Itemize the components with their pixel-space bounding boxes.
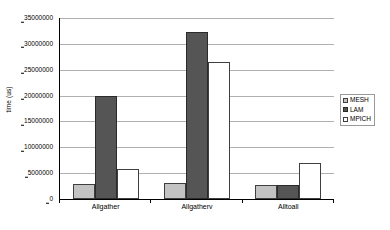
bar-mesh-allgatherv bbox=[164, 183, 186, 199]
bar-lam-allgatherv bbox=[186, 32, 208, 199]
y-axis-tick-label: 20000000 bbox=[24, 92, 53, 99]
bar-mpich-allgatherv bbox=[208, 62, 230, 199]
y-axis-title: time (us) bbox=[0, 0, 16, 198]
bar-groups bbox=[60, 18, 334, 199]
bar-group bbox=[243, 18, 334, 199]
bar-group bbox=[60, 18, 151, 199]
bar-group bbox=[151, 18, 242, 199]
y-axis-tick-labels: 3500000030000000250000002000000015000000… bbox=[16, 14, 56, 199]
legend-item-lam: LAM bbox=[343, 107, 371, 114]
y-axis-tick-mark bbox=[21, 73, 24, 74]
y-axis-tick-label: 15000000 bbox=[24, 118, 53, 125]
legend-label: LAM bbox=[350, 107, 363, 114]
legend-swatch-mpich-icon bbox=[343, 117, 348, 122]
legend-label: MPICH bbox=[350, 116, 371, 123]
y-axis-tick-label: 30000000 bbox=[24, 41, 53, 48]
y-axis-tick-mark bbox=[21, 47, 24, 48]
legend-label: MESH bbox=[350, 97, 369, 104]
bar-mesh-allgather bbox=[73, 184, 95, 200]
legend: MESHLAMMPICH bbox=[340, 94, 375, 126]
plot-area bbox=[59, 18, 334, 200]
x-axis-tick-label: Allgather bbox=[60, 203, 151, 210]
bar-lam-allgather bbox=[95, 96, 117, 199]
bar-mpich-alltoall bbox=[299, 163, 321, 199]
y-axis-tick-label: 0 bbox=[49, 196, 53, 203]
y-axis-tick-mark bbox=[21, 99, 24, 100]
y-axis-tick-mark bbox=[25, 176, 28, 177]
y-axis-tick-label: 5000000 bbox=[28, 170, 53, 177]
y-axis-tick-label: 10000000 bbox=[24, 144, 53, 151]
y-axis-tick-label: 25000000 bbox=[24, 66, 53, 73]
legend-item-mpich: MPICH bbox=[343, 116, 371, 123]
legend-swatch-lam-icon bbox=[343, 107, 348, 112]
bar-lam-alltoall bbox=[277, 185, 299, 199]
bar-mpich-allgather bbox=[117, 169, 139, 199]
x-axis-tick-label: Allgatherv bbox=[151, 203, 242, 210]
x-axis-tick-labels: AllgatherAllgathervAlltoall bbox=[60, 203, 334, 210]
y-axis-tick-mark bbox=[21, 21, 24, 22]
legend-item-mesh: MESH bbox=[343, 97, 371, 104]
y-axis-tick-mark bbox=[21, 125, 24, 126]
bar-mesh-alltoall bbox=[255, 185, 277, 199]
y-axis-tick-mark bbox=[21, 151, 24, 152]
y-axis-tick-mark bbox=[46, 202, 49, 203]
bar-chart: time (us) 350000003000000025000000200000… bbox=[0, 0, 390, 230]
y-axis-tick-label: 35000000 bbox=[24, 15, 53, 22]
x-axis-tick-label: Alltoall bbox=[243, 203, 334, 210]
legend-swatch-mesh-icon bbox=[343, 98, 348, 103]
y-axis-title-label: time (us) bbox=[5, 86, 12, 112]
